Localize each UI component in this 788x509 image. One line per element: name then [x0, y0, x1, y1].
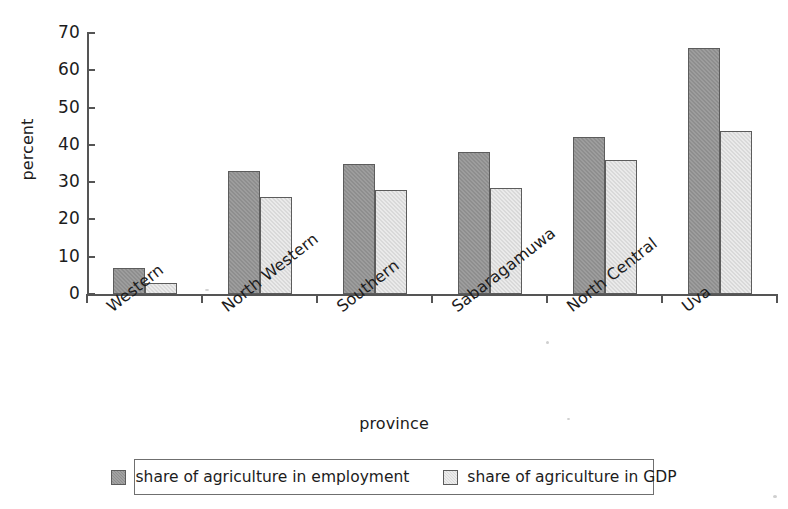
x-tick-mark	[431, 294, 433, 303]
y-tick-label: 70	[32, 22, 80, 42]
x-tick-mark	[776, 294, 778, 303]
y-tick-label: 0	[32, 283, 80, 303]
bar	[720, 131, 752, 294]
chart-legend: share of agriculture in employmentshare …	[134, 459, 654, 495]
x-tick-mark	[201, 294, 203, 303]
y-tick-mark	[87, 69, 95, 71]
y-tick-label: 20	[32, 208, 80, 228]
y-tick-mark	[87, 144, 95, 146]
y-tick-label: 40	[32, 134, 80, 154]
scan-speck	[205, 289, 209, 291]
y-tick-mark	[87, 218, 95, 220]
legend-entry[interactable]: share of agriculture in GDP	[443, 468, 676, 486]
bar	[573, 137, 605, 294]
x-tick-mark	[546, 294, 548, 303]
y-tick-label: 60	[32, 59, 80, 79]
legend-label: share of agriculture in employment	[135, 468, 409, 486]
x-axis-title: province	[0, 414, 788, 433]
scan-speck	[773, 495, 777, 498]
light-gray-swatch	[443, 470, 458, 485]
y-tick-label: 50	[32, 97, 80, 117]
y-tick-mark	[87, 107, 95, 109]
x-tick-mark	[316, 294, 318, 303]
bar-chart: percent 010203040506070 WesternNorth Wes…	[0, 0, 788, 509]
y-tick-mark	[87, 181, 95, 183]
legend-entry[interactable]: share of agriculture in employment	[111, 468, 409, 486]
y-tick-mark	[87, 256, 95, 258]
x-tick-mark	[661, 294, 663, 303]
x-tick-mark	[86, 294, 88, 303]
scan-speck	[567, 418, 570, 420]
legend-label: share of agriculture in GDP	[467, 468, 676, 486]
bar	[688, 48, 720, 294]
scan-speck	[546, 341, 549, 344]
dark-gray-swatch	[111, 470, 126, 485]
y-tick-label: 30	[32, 171, 80, 191]
y-tick-label: 10	[32, 246, 80, 266]
y-tick-mark	[87, 32, 95, 34]
